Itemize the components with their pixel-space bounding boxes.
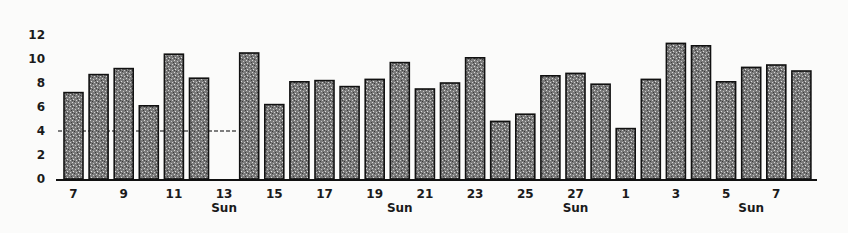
x-tick-label: 19 bbox=[366, 187, 383, 201]
bar-12 bbox=[190, 78, 209, 179]
bar-1 bbox=[616, 129, 635, 179]
bar-18 bbox=[340, 87, 359, 179]
x-tick-sublabel-sunday: Sun bbox=[211, 201, 237, 215]
bar-26 bbox=[541, 76, 560, 179]
bar-24 bbox=[491, 121, 510, 179]
x-tick-label: 17 bbox=[316, 187, 333, 201]
y-tick-label: 10 bbox=[28, 52, 45, 66]
x-tick-label: 13 bbox=[216, 187, 233, 201]
x-tick-label: 9 bbox=[120, 187, 128, 201]
bar-11 bbox=[164, 54, 183, 179]
bar-4 bbox=[692, 46, 711, 179]
x-tick-label: 25 bbox=[517, 187, 534, 201]
y-tick-label: 4 bbox=[37, 124, 45, 138]
y-tick-label: 6 bbox=[37, 100, 45, 114]
bar-9 bbox=[114, 69, 133, 179]
x-tick-label: 3 bbox=[672, 187, 680, 201]
bar-21 bbox=[415, 89, 434, 179]
bar-10 bbox=[139, 106, 158, 179]
x-tick-label: 1 bbox=[622, 187, 630, 201]
bar-8 bbox=[792, 71, 811, 179]
bar-8 bbox=[89, 75, 108, 179]
x-tick-label: 23 bbox=[467, 187, 484, 201]
x-tick-label: 5 bbox=[722, 187, 730, 201]
bar-14 bbox=[240, 53, 259, 179]
x-tick-sublabel-sunday: Sun bbox=[563, 201, 589, 215]
bar-3 bbox=[666, 43, 685, 179]
bar-7 bbox=[767, 65, 786, 179]
x-tick-label: 11 bbox=[166, 187, 183, 201]
bar-chart: 024681012 791113Sun151719Sun21232527Sun1… bbox=[0, 0, 848, 233]
y-tick-label: 0 bbox=[37, 172, 45, 186]
y-tick-label: 8 bbox=[37, 76, 45, 90]
bar-22 bbox=[441, 83, 460, 179]
x-tick-label: 7 bbox=[69, 187, 77, 201]
x-tick-sublabel-sunday: Sun bbox=[387, 201, 413, 215]
bar-7 bbox=[64, 93, 83, 179]
bar-6 bbox=[742, 67, 761, 179]
bar-2 bbox=[641, 79, 660, 179]
bar-16 bbox=[290, 82, 309, 179]
bar-19 bbox=[365, 79, 384, 179]
bar-15 bbox=[265, 105, 284, 179]
y-tick-label: 2 bbox=[37, 148, 45, 162]
bar-28 bbox=[591, 84, 610, 179]
bar-17 bbox=[315, 81, 334, 179]
x-tick-label: 27 bbox=[567, 187, 584, 201]
x-tick-label: 7 bbox=[772, 187, 780, 201]
bar-5 bbox=[717, 82, 736, 179]
bar-20 bbox=[390, 63, 409, 179]
y-tick-label: 12 bbox=[28, 28, 45, 42]
x-tick-label: 21 bbox=[417, 187, 434, 201]
x-tick-label: 15 bbox=[266, 187, 283, 201]
bar-27 bbox=[566, 73, 585, 179]
bar-23 bbox=[466, 58, 485, 179]
x-axis: 791113Sun151719Sun21232527Sun135Sun7 bbox=[56, 180, 817, 215]
bar-25 bbox=[516, 114, 535, 179]
x-tick-sublabel-sunday: Sun bbox=[738, 201, 764, 215]
bars bbox=[64, 43, 811, 179]
y-axis: 024681012 bbox=[28, 28, 45, 186]
